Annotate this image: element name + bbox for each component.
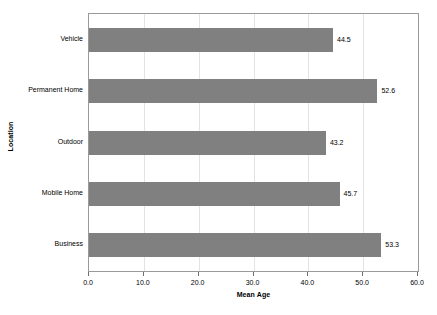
x-axis-tick-label: 30.0 bbox=[246, 278, 260, 287]
bar-value-label: 45.7 bbox=[344, 190, 358, 198]
y-axis-tick-labels: VehiclePermanent HomeOutdoorMobile HomeB… bbox=[16, 13, 87, 272]
bar-value-label: 43.2 bbox=[330, 139, 344, 147]
x-axis-tick-label: 50.0 bbox=[355, 278, 369, 287]
x-axis-tick-label: 0.0 bbox=[83, 278, 93, 287]
x-axis-tick-mark bbox=[307, 272, 308, 276]
y-axis-tick-label: Outdoor bbox=[58, 138, 83, 146]
x-axis-tick-labels: 0.010.020.030.040.050.060.0 bbox=[88, 278, 419, 288]
x-axis-tick-marks bbox=[88, 272, 419, 277]
x-axis-tick-label: 40.0 bbox=[301, 278, 315, 287]
x-axis-tick-mark bbox=[198, 272, 199, 276]
bar bbox=[89, 131, 326, 155]
bar bbox=[89, 182, 340, 206]
x-axis-tick-label: 60.0 bbox=[410, 278, 424, 287]
x-axis-tick-mark bbox=[88, 272, 89, 276]
x-axis-tick-mark bbox=[143, 272, 144, 276]
x-axis-tick-mark bbox=[253, 272, 254, 276]
x-axis-tick-label: 20.0 bbox=[191, 278, 205, 287]
bar-value-label: 52.6 bbox=[381, 87, 395, 95]
bar-chart: Location VehiclePermanent HomeOutdoorMob… bbox=[0, 0, 437, 315]
y-axis-title-text: Location bbox=[8, 121, 15, 151]
bar bbox=[89, 233, 381, 257]
plot-area: 44.552.643.245.753.3 bbox=[88, 13, 419, 272]
bar-value-label: 53.3 bbox=[385, 241, 399, 249]
x-axis-tick-label: 10.0 bbox=[136, 278, 150, 287]
y-axis-tick-label: Vehicle bbox=[60, 35, 83, 43]
x-axis-title: Mean Age bbox=[88, 291, 419, 298]
bar bbox=[89, 28, 333, 52]
y-axis-tick-label: Business bbox=[55, 240, 83, 248]
x-axis-tick-mark bbox=[417, 272, 418, 276]
y-axis-tick-label: Permanent Home bbox=[28, 86, 83, 94]
y-axis-tick-label: Mobile Home bbox=[42, 189, 83, 197]
bar bbox=[89, 79, 377, 103]
x-axis-tick-mark bbox=[362, 272, 363, 276]
bar-value-label: 44.5 bbox=[337, 36, 351, 44]
